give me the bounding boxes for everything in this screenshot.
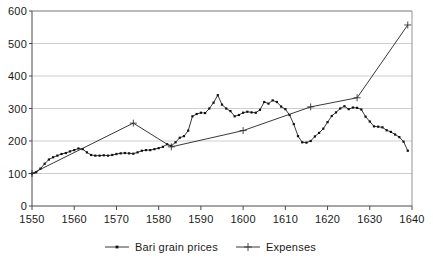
y-axis-tick-label: 300 — [8, 103, 27, 115]
data-point-marker — [162, 146, 164, 148]
data-point-marker — [196, 113, 198, 115]
data-point-marker — [77, 147, 79, 149]
x-axis-tick-label: 1610 — [273, 213, 298, 225]
data-point-marker — [250, 111, 252, 113]
data-point-marker — [326, 121, 328, 123]
y-axis-tick-label: 600 — [8, 5, 27, 17]
line-chart: 6005004003002001000 15501560157015801590… — [0, 0, 433, 264]
data-point-marker — [238, 114, 240, 116]
data-point-marker — [132, 153, 134, 155]
data-point-marker — [348, 108, 350, 110]
data-point-marker — [373, 125, 375, 127]
data-point-marker — [318, 132, 320, 134]
x-axis-tick-label: 1590 — [188, 213, 213, 225]
legend-item-expenses[interactable] — [234, 238, 322, 256]
data-point-marker — [339, 107, 341, 109]
data-point-marker — [48, 158, 50, 160]
data-point-marker — [221, 104, 223, 106]
data-point-marker — [314, 135, 316, 137]
data-point-marker — [217, 94, 219, 96]
data-point-marker — [335, 111, 337, 113]
data-point-marker — [158, 147, 160, 149]
data-point-marker — [331, 115, 333, 117]
data-point-marker — [73, 149, 75, 151]
data-point-marker — [179, 137, 181, 139]
data-point-marker — [305, 142, 307, 144]
data-point-marker — [394, 133, 396, 135]
data-point-marker — [128, 152, 130, 154]
x-axis-tick-label: 1570 — [104, 213, 129, 225]
data-point-marker — [69, 150, 71, 152]
data-point-marker — [377, 126, 379, 128]
data-point-marker — [280, 105, 282, 107]
data-point-marker — [360, 108, 362, 110]
data-point-marker — [386, 129, 388, 131]
data-point-marker — [56, 155, 58, 157]
data-point-marker — [212, 102, 214, 104]
data-point-marker — [145, 149, 147, 151]
data-point-marker — [356, 107, 358, 109]
data-point-marker — [229, 110, 231, 112]
data-point-marker — [52, 156, 54, 158]
legend-item-bari-grain-prices[interactable] — [103, 238, 245, 256]
data-point-marker — [276, 101, 278, 103]
data-point-marker — [200, 112, 202, 114]
data-point-marker — [174, 141, 176, 143]
chart-legend: Bari grain pricesExpenses — [103, 238, 322, 256]
data-point-marker — [263, 101, 265, 103]
data-point-marker — [293, 123, 295, 125]
data-point-marker — [111, 154, 113, 156]
data-point-marker — [107, 155, 109, 157]
data-point-marker — [259, 109, 261, 111]
data-point-marker — [246, 111, 248, 113]
data-point-marker — [343, 105, 345, 107]
y-axis-tick-label: 400 — [8, 70, 27, 82]
data-point-marker — [103, 154, 105, 156]
data-point-marker — [352, 106, 354, 108]
data-point-marker — [115, 153, 117, 155]
data-point-marker — [242, 112, 244, 114]
y-axis-tick-label: 200 — [8, 135, 27, 147]
x-axis-tick-label: 1550 — [19, 213, 44, 225]
data-point-marker — [407, 150, 409, 152]
chart-container: 6005004003002001000 15501560157015801590… — [0, 0, 433, 264]
data-point-marker — [149, 149, 151, 151]
data-point-marker — [297, 135, 299, 137]
x-axis-tick-label: 1580 — [146, 213, 171, 225]
data-point-marker — [234, 115, 236, 117]
data-point-marker — [208, 107, 210, 109]
data-point-marker — [124, 152, 126, 154]
data-point-marker — [136, 151, 138, 153]
y-axis-tick-label: 0 — [21, 200, 27, 212]
data-point-marker — [398, 136, 400, 138]
x-axis-tick-label: 1640 — [399, 213, 424, 225]
data-point-marker — [301, 141, 303, 143]
data-point-marker — [204, 112, 206, 114]
data-point-marker — [98, 155, 100, 157]
data-point-marker — [86, 151, 88, 153]
data-point-marker — [90, 154, 92, 156]
x-axis-tick-label: 1630 — [357, 213, 382, 225]
data-point-marker — [267, 103, 269, 105]
data-point-marker — [272, 99, 274, 101]
data-point-marker — [94, 155, 96, 157]
data-point-marker — [183, 135, 185, 137]
data-point-marker — [402, 141, 404, 143]
data-point-marker — [65, 152, 67, 154]
y-axis-tick-label: 100 — [8, 168, 27, 180]
data-point-marker — [284, 108, 286, 110]
data-point-marker — [141, 150, 143, 152]
data-point-marker — [191, 115, 193, 117]
data-point-marker — [390, 131, 392, 133]
data-point-marker — [187, 130, 189, 132]
data-point-marker — [120, 152, 122, 154]
data-point-marker — [381, 126, 383, 128]
data-point-marker — [310, 140, 312, 142]
y-axis-tick-label: 500 — [8, 38, 27, 50]
data-point-marker — [153, 148, 155, 150]
data-point-marker — [44, 163, 46, 165]
data-point-marker — [369, 120, 371, 122]
data-point-marker — [255, 112, 257, 114]
x-axis-tick-label: 1600 — [230, 213, 255, 225]
data-point-marker — [322, 128, 324, 130]
